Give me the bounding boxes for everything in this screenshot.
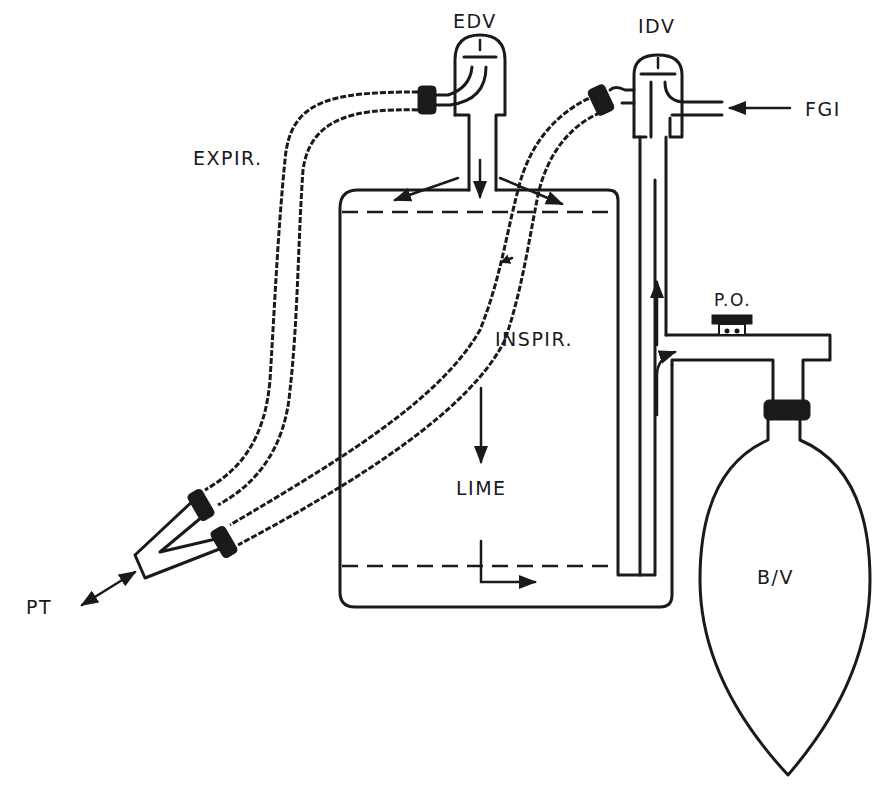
inspiratory-valve — [610, 55, 722, 137]
edv-connector — [418, 86, 436, 114]
bag-connector — [764, 400, 810, 420]
expiratory-valve — [418, 35, 505, 190]
label-pop-off: P.O. — [714, 290, 751, 310]
pop-off-valve — [712, 315, 752, 324]
circle-system-diagram — [0, 0, 894, 805]
idv-vertical-tube — [640, 137, 666, 575]
label-expir: EXPIR. — [193, 147, 263, 169]
label-patient: PT — [26, 596, 52, 618]
arrow-hose-small — [502, 258, 512, 262]
label-fgi: FGI — [805, 98, 841, 120]
lime-canister — [340, 180, 672, 607]
bag-tee-connector — [666, 315, 830, 400]
label-inspir: INSPIR. — [495, 328, 573, 350]
arrow-patient — [82, 572, 135, 605]
label-idv: IDV — [638, 15, 675, 37]
arrow-bottom-right — [481, 541, 535, 582]
label-bag-ventilator: B/V — [757, 566, 794, 588]
inspiratory-hose — [230, 84, 615, 545]
label-lime: LIME — [456, 477, 507, 499]
label-edv: EDV — [453, 10, 497, 32]
